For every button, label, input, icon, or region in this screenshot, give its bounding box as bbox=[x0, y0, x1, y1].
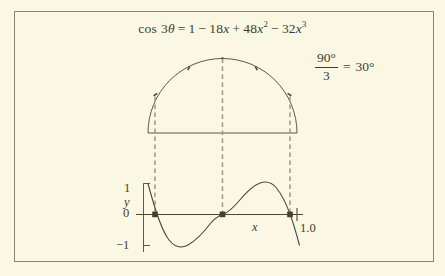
cubic-plot-group bbox=[136, 182, 303, 252]
figure-page: cos3θ=1−18x+48x2−32x3 90° 3 = 30° 1 y 0 … bbox=[0, 0, 445, 276]
dropline-group bbox=[155, 59, 290, 217]
figure-graphics bbox=[0, 0, 445, 276]
arc-point-left bbox=[154, 93, 158, 95]
arc-point-right bbox=[288, 93, 292, 95]
